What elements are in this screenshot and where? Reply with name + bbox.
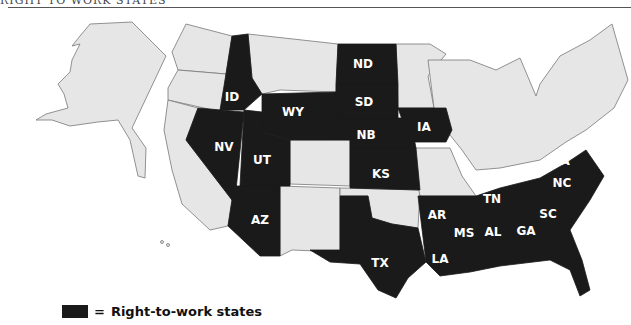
us-map: ID WY ND SD NB IA NV UT AZ KS TX AR LA M… [0, 0, 631, 300]
state-co [290, 140, 350, 186]
state-ak [36, 22, 166, 178]
legend-equals: = [94, 304, 105, 319]
label-ar: AR [428, 208, 447, 222]
state-hi [161, 241, 164, 244]
label-id: ID [225, 90, 239, 104]
label-fl: FL [543, 277, 559, 291]
label-nc: NC [553, 176, 572, 190]
label-nd: ND [353, 57, 373, 71]
state-wa [172, 24, 232, 74]
label-sd: SD [355, 95, 374, 109]
label-ga: GA [516, 224, 536, 238]
state-midwest-ne [428, 24, 628, 170]
label-ut: UT [253, 153, 272, 167]
legend-swatch-dark [62, 305, 88, 318]
label-al: AL [485, 225, 502, 239]
state-hi-island [167, 244, 170, 247]
label-tn: TN [483, 192, 501, 206]
label-ms: MS [454, 226, 475, 240]
label-wy: WY [282, 105, 304, 119]
label-tx: TX [371, 256, 389, 270]
state-nm [280, 186, 340, 256]
label-va: VA [552, 154, 570, 168]
label-ia: IA [417, 120, 431, 134]
state-mt [248, 34, 338, 94]
label-sc: SC [539, 207, 557, 221]
label-ks: KS [372, 167, 390, 181]
map-legend: = Right-to-work states [62, 304, 262, 319]
label-az: AZ [251, 213, 269, 227]
label-nv: NV [214, 140, 234, 154]
label-nb: NB [356, 128, 375, 142]
label-la: LA [432, 252, 450, 266]
legend-label: Right-to-work states [111, 304, 262, 319]
